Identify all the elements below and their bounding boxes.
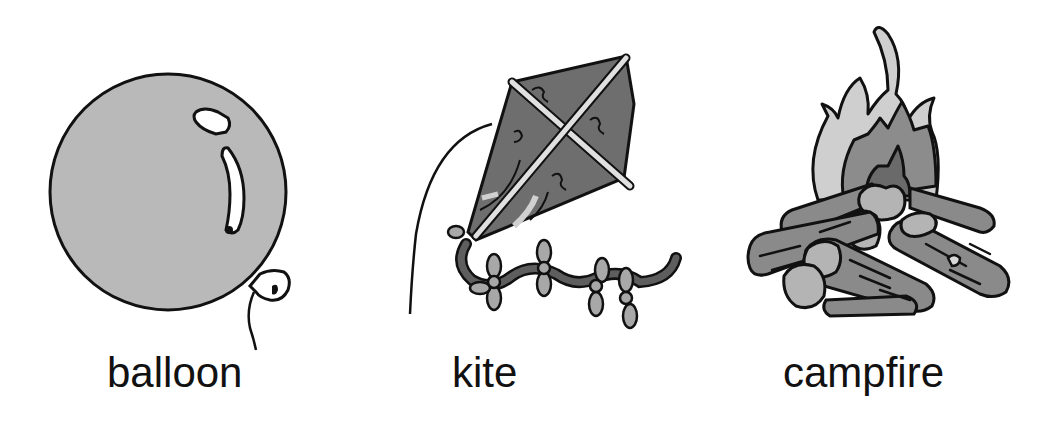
campfire-label: campfire: [783, 352, 944, 394]
campfire-item: campfire: [720, 0, 1064, 424]
kite-illustration-icon: [380, 0, 700, 424]
kite-item: kite: [380, 0, 700, 424]
balloon-item: balloon: [0, 0, 360, 424]
balloon-label: balloon: [107, 352, 242, 394]
kite-label: kite: [452, 352, 517, 394]
